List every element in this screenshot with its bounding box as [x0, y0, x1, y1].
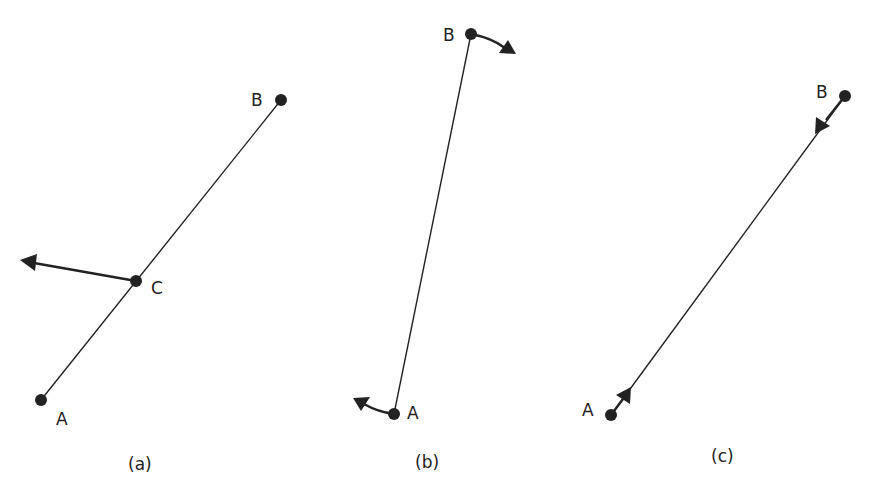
label-a: A	[407, 403, 419, 423]
arrowhead-icon	[499, 40, 516, 54]
caption-b: (b)	[415, 452, 439, 472]
caption-c: (c)	[711, 446, 734, 466]
rod-ab	[394, 34, 471, 414]
label-b: B	[443, 25, 455, 45]
point-c	[130, 275, 142, 287]
label-a: A	[582, 400, 594, 420]
caption-a: (a)	[128, 454, 152, 474]
panel-b: B A (b)	[353, 25, 516, 472]
rod-ab	[41, 100, 281, 400]
force-arrow	[34, 263, 136, 281]
rod-ab	[611, 96, 845, 415]
arrowhead-icon	[616, 387, 631, 404]
point-b	[839, 90, 851, 102]
point-b	[275, 94, 287, 106]
label-c: C	[151, 278, 163, 298]
label-a: A	[56, 409, 68, 429]
point-a	[35, 394, 47, 406]
point-a	[388, 408, 400, 420]
label-b: B	[251, 90, 263, 110]
point-b	[465, 28, 477, 40]
arrowhead-icon	[353, 397, 370, 411]
panel-c: B A (c)	[582, 82, 851, 466]
arrowhead-icon	[20, 254, 37, 271]
diagram-canvas: B C A (a) B A (b) B A (c)	[0, 0, 871, 488]
panel-a: B C A (a)	[20, 90, 287, 474]
label-b: B	[816, 82, 828, 102]
point-a	[605, 409, 617, 421]
